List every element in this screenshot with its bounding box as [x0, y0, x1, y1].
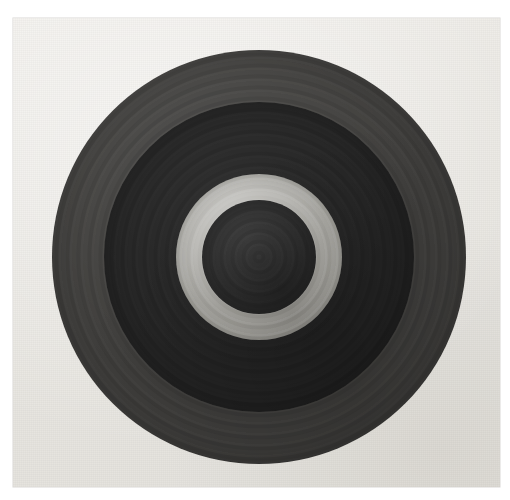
- artwork-frame: [0, 0, 510, 500]
- canvas-support: [13, 18, 500, 487]
- ring-center: [202, 200, 316, 314]
